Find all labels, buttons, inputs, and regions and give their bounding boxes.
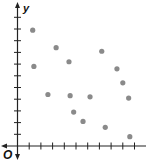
y-axis-label: y — [22, 2, 30, 14]
data-point — [127, 134, 132, 139]
y-axis-arrow-up-icon — [15, 2, 20, 8]
data-point — [66, 59, 71, 64]
scatter-plot: y O — [0, 0, 146, 161]
data-point — [54, 45, 59, 50]
y-axis-arrow-down-icon — [15, 154, 20, 160]
data-point — [68, 93, 73, 98]
data-point — [87, 94, 92, 99]
origin-label: O — [3, 148, 13, 161]
data-point — [80, 119, 85, 124]
data-point — [30, 28, 35, 33]
data-point — [45, 92, 50, 97]
data-points — [30, 28, 132, 140]
data-point — [99, 49, 104, 54]
axis-ticks — [14, 17, 135, 149]
data-point — [31, 64, 36, 69]
data-point — [103, 125, 108, 130]
data-point — [71, 109, 76, 114]
data-point — [114, 66, 119, 71]
data-point — [120, 80, 125, 85]
data-point — [126, 95, 131, 100]
